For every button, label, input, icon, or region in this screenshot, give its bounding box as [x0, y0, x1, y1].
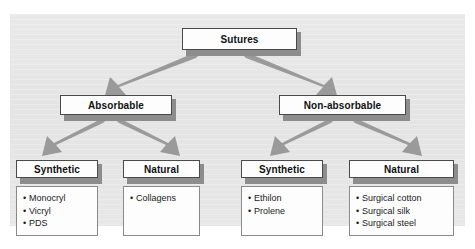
list-item: • Vicryl: [23, 205, 97, 218]
list-item: • Surgical steel: [356, 217, 453, 230]
list-item-label: Ethilon: [254, 192, 282, 205]
node-nonabsorbable-label: Non-absorbable: [304, 100, 382, 111]
list-item-label: Surgical silk: [362, 205, 410, 218]
list-nonabsorbable-natural[interactable]: • Surgical cotton • Surgical silk • Surg…: [349, 186, 454, 236]
list-absorbable-synthetic-items: • Monocryl • Vicryl • PDS: [23, 192, 97, 230]
list-item-label: Surgical steel: [362, 217, 416, 230]
list-nonabsorbable-synthetic[interactable]: • Ethilon • Prolene: [241, 186, 323, 236]
node-nonabsorbable[interactable]: Non-absorbable: [279, 95, 406, 115]
list-absorbable-natural[interactable]: • Collagens: [123, 186, 200, 236]
node-nonabsorbable-natural[interactable]: Natural: [349, 160, 454, 178]
list-item: • Monocryl: [23, 192, 97, 205]
list-nonabsorbable-synthetic-items: • Ethilon • Prolene: [248, 192, 322, 217]
node-sutures-label: Sutures: [221, 34, 259, 45]
list-absorbable-natural-items: • Collagens: [130, 192, 199, 205]
list-item: • Surgical cotton: [356, 192, 453, 205]
arrow-absorbable-to-natural: [108, 118, 186, 158]
node-absorbable-natural-label: Natural: [144, 164, 179, 175]
list-nonabsorbable-natural-items: • Surgical cotton • Surgical silk • Surg…: [356, 192, 453, 230]
list-item-label: Monocryl: [29, 192, 66, 205]
arrow-absorbable-to-synthetic: [34, 118, 112, 158]
list-absorbable-synthetic[interactable]: • Monocryl • Vicryl • PDS: [16, 186, 98, 236]
cropped-caption-sliver: [0, 243, 475, 249]
list-item: • Surgical silk: [356, 205, 453, 218]
node-absorbable-label: Absorbable: [88, 100, 144, 111]
node-sutures[interactable]: Sutures: [182, 28, 297, 50]
list-item: • Collagens: [130, 192, 199, 205]
node-nonabsorbable-synthetic[interactable]: Synthetic: [241, 160, 323, 178]
list-item-label: Prolene: [254, 205, 285, 218]
list-item-label: Collagens: [136, 192, 176, 205]
node-absorbable-natural[interactable]: Natural: [123, 160, 200, 178]
arrow-nonabsorbable-to-natural: [344, 118, 430, 158]
list-item: • Prolene: [248, 205, 322, 218]
list-item: • Ethilon: [248, 192, 322, 205]
node-nonabsorbable-natural-label: Natural: [384, 164, 419, 175]
list-item-label: PDS: [29, 217, 48, 230]
list-item-label: Surgical cotton: [362, 192, 422, 205]
node-nonabsorbable-synthetic-label: Synthetic: [259, 164, 305, 175]
node-absorbable-synthetic[interactable]: Synthetic: [16, 160, 98, 178]
diagram-panel: Sutures Absorbable Non-absorbable Synthe…: [10, 14, 465, 226]
figure-root: Sutures Absorbable Non-absorbable Synthe…: [0, 0, 475, 249]
node-absorbable[interactable]: Absorbable: [60, 95, 172, 115]
arrow-nonabsorbable-to-synthetic: [262, 118, 340, 158]
node-absorbable-synthetic-label: Synthetic: [34, 164, 80, 175]
list-item-label: Vicryl: [29, 205, 51, 218]
list-item: • PDS: [23, 217, 97, 230]
